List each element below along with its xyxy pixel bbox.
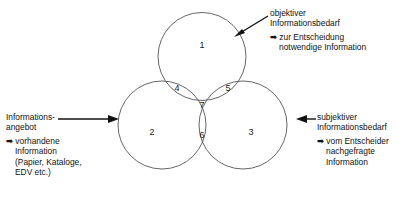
annotation-heading-line2: angebot	[6, 122, 82, 132]
annotation-bullet-line3: Information	[317, 157, 389, 167]
annotation-informationsangebot: Informations- angebot ➡ vorhandene Infor…	[6, 112, 82, 177]
pointer-arrow-right	[296, 115, 316, 123]
arrow-bullet-icon: ➡	[6, 136, 13, 146]
annotation-bullet-line2: nachgefragte	[317, 146, 389, 156]
annotation-bullet-line3: (Papier, Kataloge,	[6, 157, 82, 167]
pointer-arrow-top-right	[234, 16, 268, 37]
annotation-heading-line1: subjektiver	[317, 112, 389, 122]
annotation-heading-line1: Informations-	[6, 112, 82, 122]
annotation-bullet-line4: EDV etc.)	[6, 167, 82, 177]
annotation-subjektiver-informationsbedarf: subjektiver Informationsbedarf ➡ vom Ent…	[317, 112, 389, 167]
circle-informationsangebot	[118, 81, 206, 169]
annotation-heading-line2: Informationsbedarf	[317, 122, 389, 132]
annotation-bullet-text1: zur Entscheidung	[279, 32, 344, 42]
arrow-bullet-icon: ➡	[317, 136, 324, 146]
annotation-bullet-line1: ➡ zur Entscheidung	[270, 32, 366, 42]
region-label-7: 7	[195, 101, 209, 110]
annotation-objektiver-informationsbedarf: objektiver Informationsbedarf ➡ zur Ents…	[270, 8, 366, 53]
region-label-5: 5	[221, 84, 235, 93]
region-label-4: 4	[170, 84, 184, 93]
annotation-bullet-text1: vom Entscheider	[326, 136, 388, 146]
annotation-bullet-line1: ➡ vom Entscheider	[317, 136, 389, 146]
circle-subjektiver-informationsbedarf	[199, 81, 287, 169]
annotation-heading-line2: Informationsbedarf	[270, 18, 366, 28]
region-label-6: 6	[195, 131, 209, 140]
region-label-1: 1	[195, 41, 209, 50]
venn-diagram-figure: 1 2 3 4 5 6 7 objektiver Informationsbed…	[0, 0, 413, 198]
annotation-bullet-line2: notwendige Information	[270, 42, 366, 52]
arrow-bullet-icon: ➡	[270, 32, 277, 42]
region-label-2: 2	[145, 128, 159, 137]
annotation-bullet-text1: vorhandene	[15, 136, 59, 146]
region-label-3: 3	[244, 128, 258, 137]
annotation-bullet-line2: Information	[6, 146, 82, 156]
annotation-bullet-line1: ➡ vorhandene	[6, 136, 82, 146]
annotation-heading-line1: objektiver	[270, 8, 366, 18]
